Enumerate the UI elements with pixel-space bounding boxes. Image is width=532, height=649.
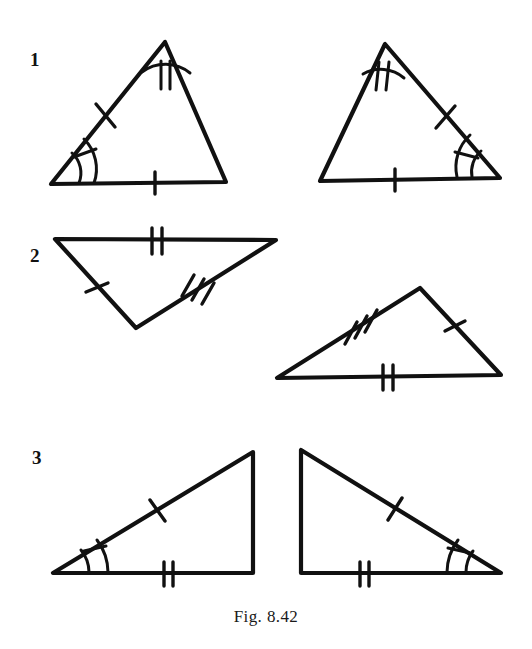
row2-left-triangle [55,228,276,328]
row3-right-triangle [301,450,501,586]
row1-left-triangle [51,42,226,194]
figure-canvas: 1 [0,0,532,649]
figure-caption: Fig. 8.42 [234,607,299,626]
pair-3-group: 3 [32,447,501,586]
row-label-2: 2 [30,245,40,266]
pair-2-group: 2 [30,228,501,390]
angle-tick-apex-b [386,62,389,90]
row1-right-triangle [320,44,500,191]
angle-arc-bl-outer-1 [84,139,96,183]
row3-left-triangle [53,452,253,586]
triangle-outline [277,288,501,378]
row-label-1: 1 [30,49,40,70]
row2-right-triangle [277,288,501,390]
figure-root: 1 [0,0,532,649]
side-tick-right-1 [445,321,465,331]
row-label-3: 3 [32,447,42,468]
triangle-outline [55,239,276,328]
angle-arc-apex-1 [142,64,190,73]
pair-1-group: 1 [30,42,500,194]
